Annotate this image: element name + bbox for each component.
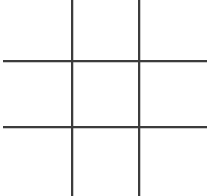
board-cell-r3c3[interactable]: [139, 127, 212, 196]
board-cell-r2c3[interactable]: [139, 61, 212, 126]
board-cell-r2c1[interactable]: [0, 61, 71, 126]
board-cell-r3c1[interactable]: [0, 127, 71, 196]
board-cell-r2c2[interactable]: [72, 61, 138, 126]
grid-line-vertical-right: [138, 0, 140, 196]
grid-line-horizontal-top: [3, 60, 207, 62]
board-cell-r1c2[interactable]: [72, 0, 138, 60]
board-cell-r1c1[interactable]: [0, 0, 71, 60]
grid-line-horizontal-bottom: [3, 126, 207, 128]
grid-line-vertical-left: [71, 0, 73, 196]
board-cell-r3c2[interactable]: [72, 127, 138, 196]
board-cell-r1c3[interactable]: [139, 0, 212, 60]
tic-tac-toe-board: [0, 0, 212, 196]
